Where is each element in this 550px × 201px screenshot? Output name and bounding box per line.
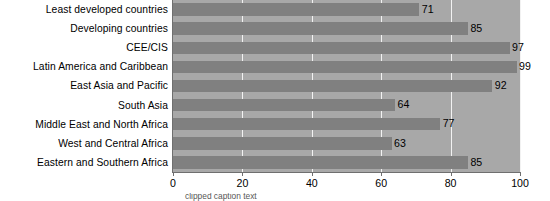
bar: [173, 61, 517, 74]
category-label: Latin America and Caribbean: [0, 61, 168, 72]
bar-chart: Least developed countriesDeveloping coun…: [0, 0, 550, 201]
x-axis-tick-label: 0: [170, 177, 176, 189]
category-label: Developing countries: [0, 23, 168, 34]
category-label: East Asia and Pacific: [0, 80, 168, 91]
bar-value-label: 77: [443, 118, 455, 129]
x-axis-tick-label: 20: [236, 177, 248, 189]
bar-value-label: 97: [512, 42, 524, 53]
category-label: West and Central Africa: [0, 138, 168, 149]
bar-value-label: 85: [470, 23, 482, 34]
x-axis-tick: [520, 172, 521, 176]
gridline: [520, 0, 521, 172]
x-axis-tick: [381, 172, 382, 176]
x-axis-tick-label: 80: [445, 177, 457, 189]
bar-value-label: 64: [398, 99, 410, 110]
bar: [173, 137, 392, 150]
bar-value-label: 99: [519, 61, 531, 72]
x-axis-tick: [312, 172, 313, 176]
bar: [173, 22, 468, 35]
bar-value-label: 92: [495, 80, 507, 91]
x-axis-tick-label: 100: [511, 177, 529, 189]
value-axis-line: [172, 0, 173, 173]
x-axis-tick: [173, 172, 174, 176]
figure-caption-clipped: clipped caption text: [0, 193, 550, 201]
x-axis-tick-label: 60: [375, 177, 387, 189]
bar: [173, 42, 510, 55]
bar: [173, 3, 419, 16]
x-axis-tick-label: 40: [306, 177, 318, 189]
category-axis-labels: Least developed countriesDeveloping coun…: [0, 0, 168, 172]
category-label: Least developed countries: [0, 4, 168, 15]
bar: [173, 118, 440, 131]
category-label: South Asia: [0, 100, 168, 111]
bar-value-label: 63: [394, 138, 406, 149]
category-label: Middle East and North Africa: [0, 119, 168, 130]
x-axis-tick: [451, 172, 452, 176]
plot-area: [173, 0, 520, 172]
bar: [173, 80, 492, 93]
bar: [173, 156, 468, 169]
bar: [173, 99, 395, 112]
category-label: CEE/CIS: [0, 42, 168, 53]
bar-value-label: 71: [422, 4, 434, 15]
figure-caption-text: clipped caption text: [185, 193, 257, 201]
category-axis-baseline: [172, 172, 520, 173]
category-label: Eastern and Southern Africa: [0, 157, 168, 168]
bar-value-label: 85: [470, 157, 482, 168]
x-axis-tick: [242, 172, 243, 176]
